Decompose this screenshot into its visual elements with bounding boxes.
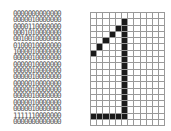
pixel-grid bbox=[90, 12, 165, 126]
grid-cell bbox=[159, 120, 165, 126]
binary-matrix-text: 0000000000000 0000010000000 000011000000… bbox=[13, 11, 61, 125]
